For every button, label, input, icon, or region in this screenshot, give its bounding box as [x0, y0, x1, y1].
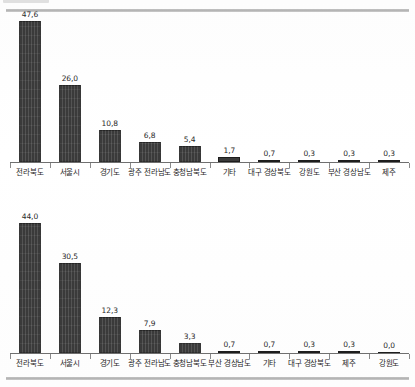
category-label: 서울시: [60, 359, 80, 369]
bar-slot: 30,5: [50, 205, 90, 353]
category-labels-top: 전라북도서울시경기도광주 전라남도충청남북도기타대구 경상북도강원도부산 경상남…: [10, 168, 409, 190]
bar-slot: 0,7: [210, 205, 250, 353]
category-label: 전라북도: [16, 168, 43, 178]
bar-slot: 0,3: [369, 14, 409, 162]
bar-slot: 7,9: [130, 205, 170, 353]
bar: [59, 85, 81, 162]
bar-value-label: 47,6: [22, 11, 38, 19]
bar-slot: 1,7: [210, 14, 250, 162]
page-header: [0, 0, 415, 7]
bar-slot: 3,3: [170, 205, 210, 353]
bar-slot: 5,4: [170, 14, 210, 162]
bar-slot: 0,3: [289, 14, 329, 162]
bar: [179, 146, 201, 162]
bar-slot: 0,3: [329, 205, 369, 353]
bar: [99, 130, 121, 162]
category-label: 강원도: [299, 168, 319, 178]
category-label: 전라북도: [16, 359, 43, 369]
divider-rule-top: [6, 9, 409, 12]
bar-value-label: 0,3: [303, 150, 315, 158]
bar-slot: 12,3: [90, 205, 130, 353]
category-label: 제주: [342, 359, 356, 369]
bar-value-label: 0,7: [264, 341, 276, 349]
category-label: 경기도: [100, 359, 120, 369]
category-label: 강원도: [379, 359, 399, 369]
header-tag-badge: [3, 0, 49, 3]
category-label: 서울시: [60, 168, 80, 178]
bar-value-label: 0,3: [383, 150, 395, 158]
bar-slot: 0,3: [329, 14, 369, 162]
bar-value-label: 6,8: [144, 132, 156, 140]
bars-container-top: 47,626,010,86,85,41,70,70,30,30,3: [10, 14, 409, 162]
bar-value-label: 10,8: [102, 120, 118, 128]
bars-container-bottom: 44,030,512,37,93,30,70,70,30,30,0: [10, 205, 409, 353]
bar-slot: 0,7: [249, 14, 289, 162]
bar: [59, 263, 81, 353]
bar-slot: 47,6: [10, 14, 50, 162]
bar-value-label: 0,0: [383, 342, 395, 350]
category-label: 충청남북도: [173, 359, 207, 369]
bar: [139, 330, 161, 353]
x-axis-top: [10, 162, 409, 163]
bar-slot: 26,0: [50, 14, 90, 162]
bar-slot: 0,0: [369, 205, 409, 353]
bar-slot: 0,3: [289, 205, 329, 353]
axis-tick: [409, 163, 410, 168]
bar-value-label: 44,0: [22, 213, 38, 221]
bar-value-label: 0,7: [264, 150, 276, 158]
bar: [19, 223, 41, 353]
bar-slot: 6,8: [130, 14, 170, 162]
category-label: 부산 경상남도: [208, 359, 251, 369]
bar-chart-top: 47,626,010,86,85,41,70,70,30,30,3 전라북도서울…: [0, 14, 415, 190]
bar: [99, 317, 121, 353]
document-page: 47,626,010,86,85,41,70,70,30,30,3 전라북도서울…: [0, 0, 415, 387]
bar-value-label: 0,7: [224, 341, 236, 349]
bar-chart-bottom: 44,030,512,37,93,30,70,70,30,30,0 전라북도서울…: [0, 205, 415, 373]
bar-value-label: 0,3: [303, 341, 315, 349]
category-label: 충청남북도: [173, 168, 207, 178]
bar-value-label: 0,3: [343, 341, 355, 349]
category-label: 대구 경상북도: [248, 168, 291, 178]
bar: [19, 21, 41, 162]
bar: [179, 343, 201, 353]
bar-value-label: 12,3: [102, 307, 118, 315]
category-label: 기타: [223, 168, 237, 178]
category-label: 광주 전라남도: [128, 359, 171, 369]
bar-value-label: 3,3: [184, 333, 196, 341]
category-label: 부산 경상남도: [328, 168, 371, 178]
bar: [139, 142, 161, 162]
x-axis-bottom: [10, 353, 409, 354]
bar-value-label: 0,3: [343, 150, 355, 158]
bar-value-label: 5,4: [184, 136, 196, 144]
category-label: 경기도: [100, 168, 120, 178]
category-label: 기타: [263, 359, 277, 369]
bar-value-label: 7,9: [144, 320, 156, 328]
bar-slot: 10,8: [90, 14, 130, 162]
category-label: 대구 경상북도: [288, 359, 331, 369]
category-label: 제주: [382, 168, 396, 178]
category-label: 광주 전라남도: [128, 168, 171, 178]
bar-slot: 0,7: [249, 205, 289, 353]
bar-value-label: 26,0: [62, 75, 78, 83]
axis-tick: [409, 354, 410, 359]
divider-rule-bottom: [6, 377, 409, 380]
bar-value-label: 30,5: [62, 253, 78, 261]
bar-slot: 44,0: [10, 205, 50, 353]
bar-value-label: 1,7: [224, 147, 236, 155]
